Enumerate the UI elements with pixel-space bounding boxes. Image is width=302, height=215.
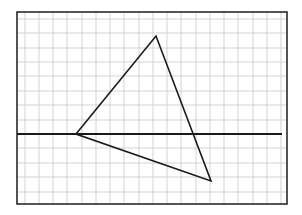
background (0, 0, 302, 215)
grid-triangle-diagram (0, 0, 302, 215)
